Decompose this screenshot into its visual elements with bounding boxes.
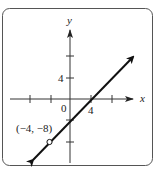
x-axis-label: x [139, 92, 145, 104]
y-axis-label: y [66, 14, 72, 26]
x-axis [10, 95, 134, 103]
point-label: (−4, −8) [16, 122, 53, 135]
graph-canvas: y x 4 0 4 (−4, −8) [0, 0, 156, 173]
y-tick-label-4: 4 [58, 72, 64, 84]
x-tick-label-4: 4 [88, 104, 94, 116]
y-axis [66, 29, 74, 163]
graph-frame [3, 9, 153, 166]
origin-label: 0 [61, 102, 67, 114]
point-marker [47, 139, 52, 144]
